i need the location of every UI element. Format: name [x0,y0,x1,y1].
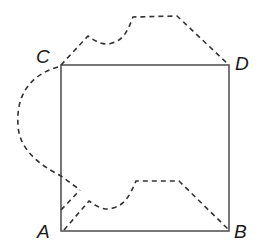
bottom-dashed-path [64,181,229,230]
left-dashed-segment [61,190,80,210]
vertex-label-a: A [37,222,50,241]
vertex-label-c: C [36,47,50,66]
square-diagram [0,0,269,246]
left-dashed-arc [18,67,80,190]
vertex-label-b: B [234,222,247,241]
vertex-label-d: D [235,54,249,73]
top-dashed-path [61,16,229,65]
square-abcd [61,65,229,231]
